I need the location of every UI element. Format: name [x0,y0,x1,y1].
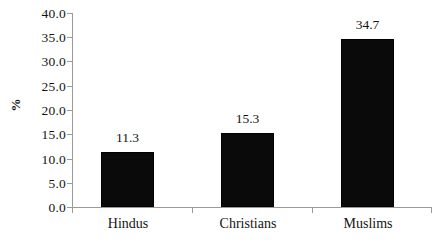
bar-chart: % 40.0 35.0 30.0 25.0 20.0 15.0 10.0 5.0… [0,0,438,244]
y-axis-tick [67,110,73,111]
y-axis-tick-label: 30.0 [6,55,66,69]
x-axis-line [72,207,432,208]
y-axis-tick-label: 40.0 [6,7,66,21]
bar-muslims [341,39,394,207]
y-axis-tick [67,159,73,160]
y-axis-tick [67,13,73,14]
y-axis-tick-label: 20.0 [6,104,66,118]
bar-value-label: 11.3 [97,131,158,145]
x-axis-tick [72,207,73,213]
bar-value-label: 15.3 [217,112,278,126]
y-axis-tick-label: 0.0 [6,201,66,215]
y-axis-tick-label: 15.0 [6,128,66,142]
y-axis-tick [67,86,73,87]
x-axis-category-label: Muslims [330,216,406,232]
x-axis-category-label: Hindus [92,216,164,232]
x-axis-tick [312,207,313,213]
y-axis-tick-label: 35.0 [6,31,66,45]
x-axis-tick [192,207,193,213]
y-axis-tick-label: 5.0 [6,177,66,191]
bar-christians [221,133,274,207]
bar-value-label: 34.7 [337,18,398,32]
y-axis-tick [67,61,73,62]
y-axis-tick-label: 10.0 [6,153,66,167]
x-axis-tick [431,207,432,213]
bar-hindus [101,152,154,207]
x-axis-category-label: Christians [206,216,290,232]
y-axis-tick [67,37,73,38]
y-axis-tick-label: 25.0 [6,80,66,94]
y-axis-tick [67,183,73,184]
y-axis-tick [67,134,73,135]
